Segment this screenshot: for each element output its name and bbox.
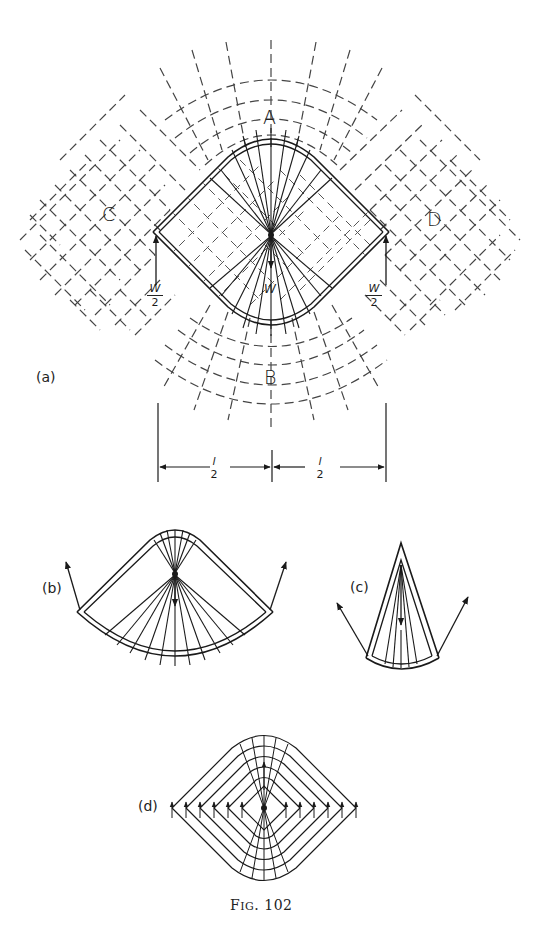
- dimension-right-label: l 2: [312, 456, 328, 480]
- right-reaction-label: W 2: [366, 283, 382, 308]
- panel-label-d: (d): [138, 799, 158, 813]
- panel-a-center-node: [268, 232, 274, 238]
- region-label-c: C: [102, 205, 115, 224]
- panel-c-diagram: [337, 543, 468, 669]
- panel-label-b: (b): [42, 581, 62, 595]
- panel-c-right-reaction: [437, 597, 468, 656]
- panel-b-diagram: [66, 530, 286, 666]
- grid-antidiagonals-d: [365, 95, 520, 335]
- center-load-label: W: [264, 283, 276, 295]
- figure-canvas: [0, 0, 542, 951]
- panel-a-dimensions: [158, 403, 386, 482]
- panel-c-left-reaction: [337, 603, 368, 656]
- figure-caption: FIG. 102: [230, 897, 292, 913]
- panel-b-right-reaction: [270, 562, 286, 610]
- panel-d-diagram: [172, 736, 356, 881]
- panel-label-a: (a): [36, 370, 56, 384]
- dimension-left-label: l 2: [206, 456, 222, 480]
- panel-label-c: (c): [350, 580, 369, 594]
- region-label-d: D: [427, 210, 442, 229]
- region-label-b: B: [264, 368, 276, 387]
- panel-b-left-reaction: [66, 562, 80, 610]
- left-reaction-label: W 2: [147, 283, 163, 308]
- region-label-a: A: [263, 108, 276, 127]
